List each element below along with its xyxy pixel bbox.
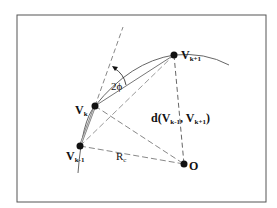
tangent-dashed-line <box>95 27 123 106</box>
curvature-diagram: Vk+1 Vk Vk-1 O 2ϕ Rc d(Vk-1, Vk+1) <box>0 0 277 208</box>
label-o: O <box>189 159 198 173</box>
point-vk1 <box>171 52 178 59</box>
label-angle: 2ϕ <box>111 80 123 92</box>
point-o <box>181 161 188 168</box>
frame <box>17 15 266 202</box>
point-vkm1 <box>77 143 84 150</box>
radius-vk-o <box>95 106 184 164</box>
label-vkm1: Vk-1 <box>66 149 85 164</box>
radius-vk1-o <box>174 55 184 164</box>
label-vk1: Vk+1 <box>181 48 202 63</box>
label-radius: Rc <box>116 150 126 164</box>
label-distance: d(Vk-1, Vk+1) <box>151 111 210 126</box>
dashed-vkm1-vk1 <box>80 55 174 146</box>
radius-vkm1-o <box>80 146 184 164</box>
point-vk <box>92 103 99 110</box>
chord-vk-vk1 <box>95 55 174 106</box>
label-vk: Vk <box>75 103 88 118</box>
